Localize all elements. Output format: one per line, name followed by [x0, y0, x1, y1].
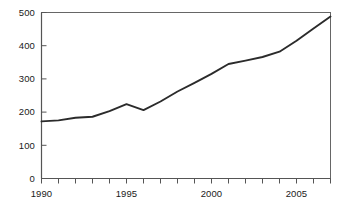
y-tick-label-0: 0: [6, 174, 35, 184]
plot-area: [0, 0, 346, 210]
y-axis-ticks: [42, 13, 47, 179]
x-axis-ticks: [42, 179, 331, 184]
y-tick-label-100: 100: [6, 141, 35, 151]
y-tick-label-400: 400: [6, 41, 35, 51]
y-tick-label-300: 300: [6, 74, 35, 84]
x-tick-label-1995: 1995: [108, 189, 145, 199]
x-tick-label-2005: 2005: [278, 189, 315, 199]
x-tick-label-2000: 2000: [193, 189, 230, 199]
x-tick-label-1990: 1990: [23, 189, 60, 199]
data-series-line: [42, 16, 331, 121]
plot-frame: [42, 13, 331, 179]
line-chart: 500 400 300 200 100 0 1990 1995 2000 200…: [0, 0, 346, 210]
y-tick-label-200: 200: [6, 107, 35, 117]
y-tick-label-500: 500: [6, 8, 35, 18]
